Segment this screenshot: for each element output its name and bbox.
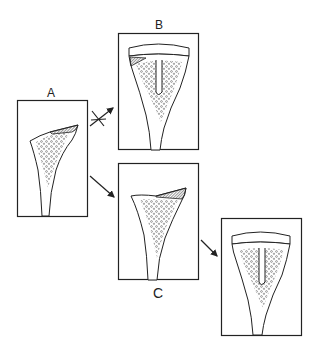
bone-d [232,232,290,335]
epiphysis-wedge-c [156,188,186,199]
panel-c-label: C [148,285,168,301]
panel-c [119,164,199,281]
panel-b [119,34,199,151]
panel-a [18,101,88,217]
arrow-a-to-c [90,176,114,197]
arrow-c-to-d [201,240,217,256]
panel-b-label: B [149,18,169,32]
panel-d [222,219,302,336]
panel-a-label: A [41,86,61,100]
bone-b [129,44,189,150]
bone-a [30,125,78,216]
bone-c [131,188,186,280]
